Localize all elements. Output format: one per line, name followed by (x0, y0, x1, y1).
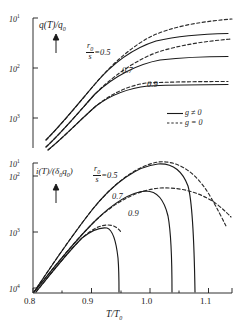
x-tick-label-0-8: 0.8 (24, 297, 35, 306)
lower-param-annotation: r0 s =0.5 (93, 165, 118, 184)
lower-param-fraction: r0 s (93, 165, 101, 184)
upper-param-value-0: 0.5 (100, 47, 111, 57)
upper-curve-0.5-dashed (46, 19, 232, 140)
x-axis-title: T/T0 (106, 310, 122, 321)
legend-label-g-zero: g = 0 (185, 119, 202, 127)
lower-panel-axis (33, 163, 38, 293)
lower-ylabel-arrow-head (53, 184, 59, 190)
lower-curve-0.7-solid (34, 191, 172, 292)
x-tick-label-0-9: 0.9 (82, 297, 93, 306)
upper-param-fraction: r0 s (86, 42, 94, 61)
lower-curves-g-zero (34, 162, 231, 292)
upper-param-value-1: 0.7 (122, 66, 133, 75)
upper-panel-axis (33, 18, 38, 148)
upper-curves-g-nonzero (46, 34, 228, 151)
lower-y-tick-label-1: 101 (9, 159, 20, 169)
lower-curve-0.7-dashed (34, 188, 231, 292)
lower-param-value-1: 0.7 (112, 192, 123, 201)
upper-curve-0.7-solid (46, 57, 228, 148)
lower-curve-0.5-dashed (34, 162, 226, 292)
lower-y-tick-label-3: 103 (9, 228, 20, 238)
lower-param-value-0: 0.5 (107, 170, 118, 180)
lower-curve-0.9-solid (36, 228, 119, 292)
x-axis (33, 288, 232, 293)
x-tick-label-1-0: 1.0 (141, 297, 152, 306)
figure-canvas (0, 0, 241, 327)
upper-y-tick-label-1: 101 (9, 14, 20, 24)
legend-sample-lines (167, 114, 183, 124)
lower-y-tick-label-4: 104 (9, 284, 20, 294)
upper-y-axis-title: q(T)/q0 (39, 21, 66, 32)
lower-y-tick-label-2: 102 (9, 172, 20, 182)
upper-y-tick-label-2: 102 (9, 64, 20, 74)
upper-y-tick-label-3: 103 (9, 114, 20, 124)
lower-curve-0.9-dashed (36, 225, 121, 292)
x-tick-label-1-1: 1.1 (200, 297, 211, 306)
upper-param-value-2: 0.9 (147, 80, 158, 89)
upper-param-annotation: r0 s =0.5 (86, 42, 111, 61)
legend-label-g-nonzero: g ≠ 0 (185, 109, 201, 117)
upper-curve-0.7-dashed (46, 39, 232, 147)
lower-param-value-2: 0.9 (128, 209, 139, 218)
lower-y-axis-title: i(T)/(δ0q0) (36, 167, 73, 178)
upper-ylabel-arrow-head (53, 34, 59, 40)
